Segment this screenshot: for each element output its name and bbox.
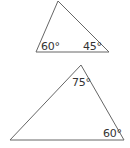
triangles-figure — [0, 0, 130, 148]
bottom-triangle-top-angle-label: 75° — [72, 77, 91, 88]
top-triangle-right-angle-label: 45° — [83, 41, 102, 52]
bottom-triangle-right-angle-label: 60° — [103, 128, 122, 139]
top-triangle-left-angle-label: 60° — [41, 41, 60, 52]
